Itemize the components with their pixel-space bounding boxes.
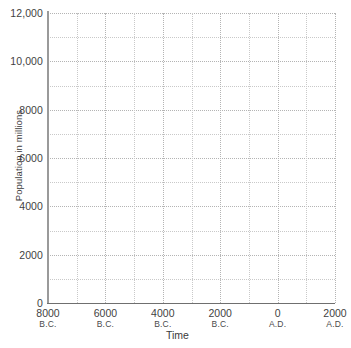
y-axis-title: Population in millions — [13, 86, 24, 226]
x-axis-tick-label: 2000A.D. — [300, 307, 351, 330]
x-axis-tick-value: 0 — [275, 307, 281, 319]
x-axis-tick-value: 6000 — [94, 307, 117, 319]
x-axis-tick-value: 2000 — [209, 307, 232, 319]
x-axis-tick-value: 4000 — [151, 307, 174, 319]
x-axis-title: Time — [0, 329, 350, 341]
x-axis-tick-value: 8000 — [36, 307, 59, 319]
x-axis-tick-value: 2000 — [323, 307, 346, 319]
